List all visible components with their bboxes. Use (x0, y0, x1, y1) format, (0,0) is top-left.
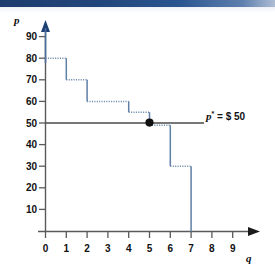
x-tick-label-4: 4 (123, 243, 135, 254)
y-tick-label-90: 90 (15, 31, 37, 42)
x-tick-label-3: 3 (102, 243, 114, 254)
y-tick-label-60: 60 (15, 96, 37, 107)
y-tick-label-50: 50 (15, 118, 37, 129)
x-tick-label-6: 6 (164, 243, 176, 254)
x-axis-title: q (246, 252, 252, 264)
y-tick-label-10: 10 (15, 204, 37, 215)
pstar-asterisk: * (212, 110, 215, 117)
y-tick-label-20: 20 (15, 182, 37, 193)
x-tick-label-2: 2 (81, 243, 93, 254)
x-tick-label-1: 1 (60, 243, 72, 254)
y-axis-ticks (39, 37, 46, 210)
y-tick-label-80: 80 (15, 53, 37, 64)
y-tick-label-30: 30 (15, 161, 37, 172)
y-tick-label-40: 40 (15, 139, 37, 150)
demand-curve-risers (66, 58, 191, 231)
demand-curve-treads (46, 58, 192, 166)
y-tick-label-70: 70 (15, 74, 37, 85)
x-tick-label-7: 7 (185, 243, 197, 254)
chart-svg (0, 0, 275, 278)
x-axis-ticks (46, 232, 233, 239)
equilibrium-price-annotation: p* = $ 50 (206, 110, 245, 122)
x-axis-arrow-icon (248, 227, 260, 236)
demand-curve-figure: p q 10 20 30 40 50 60 70 80 90 0 1 2 3 4… (0, 0, 275, 278)
pstar-value: = $ 50 (217, 111, 245, 122)
x-tick-label-0: 0 (40, 243, 52, 254)
equilibrium-point-marker (145, 119, 153, 127)
x-tick-label-8: 8 (206, 243, 218, 254)
x-tick-label-9: 9 (227, 243, 239, 254)
x-tick-label-5: 5 (144, 243, 156, 254)
y-axis-title: p (14, 14, 20, 26)
